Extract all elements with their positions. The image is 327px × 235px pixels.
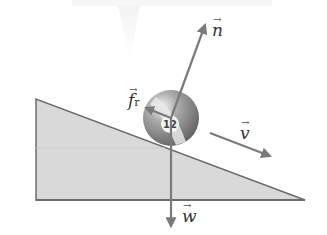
label-fr: → fr [128, 92, 140, 109]
vector-arrow-icon: → [241, 118, 249, 128]
label-v: → v [240, 125, 250, 142]
faint-background-shape [72, 0, 272, 60]
incline-diagram: 12 [0, 0, 327, 235]
vector-arrow-icon: → [129, 85, 137, 95]
label-w: → w [182, 208, 197, 225]
vector-arrow-icon: → [183, 201, 191, 211]
vector-arrow-icon: → [213, 15, 221, 25]
label-n: → n [212, 22, 223, 39]
